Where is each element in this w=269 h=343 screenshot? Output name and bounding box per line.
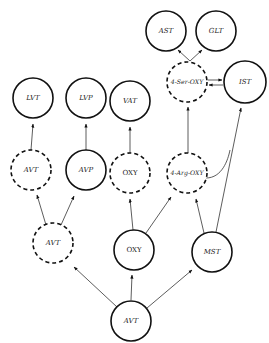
edge-oxy-low-to-oxy-mid [130, 199, 133, 230]
edge-oxy-low-to-arg-oxy [146, 197, 171, 233]
node-label: 4-Ser-OXY [170, 78, 204, 85]
edge-mst-to-ist [216, 108, 241, 232]
node-label: AVT [45, 239, 62, 247]
edge-ser-oxy-to-ast [178, 50, 190, 61]
pathway-diagram: AST GLT 4-Ser-OXY IST LVT LVP VAT AVT [0, 0, 269, 343]
node-oxy-low[interactable]: OXY [114, 230, 154, 270]
edge-avt-low-to-avp [61, 196, 74, 225]
node-glt[interactable]: GLT [196, 11, 236, 51]
node-4-ser-oxy[interactable]: 4-Ser-OXY [167, 62, 207, 102]
edge-mst-to-arg-oxy [196, 199, 204, 233]
node-label: VAT [123, 97, 138, 105]
nodes: AST GLT 4-Ser-OXY IST LVT LVP VAT AVT [11, 11, 266, 341]
node-lvt[interactable]: LVT [13, 78, 53, 118]
node-label: MST [203, 248, 222, 256]
node-lvp[interactable]: LVP [66, 78, 106, 118]
node-label: AVT [23, 166, 40, 174]
node-avt-mid[interactable]: AVT [11, 150, 51, 190]
node-ist[interactable]: IST [224, 61, 266, 103]
node-label: IST [238, 78, 253, 86]
edge-ser-oxy-to-glt [190, 50, 202, 61]
node-avt-low[interactable]: AVT [33, 223, 73, 263]
node-4-arg-oxy[interactable]: 4-Arg-OXY [167, 153, 207, 193]
node-label: LVT [25, 94, 41, 102]
edge-avt-low-to-avt-mid [37, 195, 46, 225]
node-vat[interactable]: VAT [110, 81, 150, 121]
node-label: LVP [78, 94, 93, 102]
edge-avt-root-to-mst [147, 270, 192, 308]
edge-arg-oxy-to-ist-curve [206, 150, 230, 178]
node-ast[interactable]: AST [146, 11, 186, 51]
node-label: OXY [122, 169, 138, 177]
edge-avt-root-to-avt-low [74, 267, 117, 307]
node-avp[interactable]: AVP [66, 150, 106, 190]
node-label: AVP [78, 166, 94, 174]
node-mst[interactable]: MST [192, 232, 232, 272]
edge-avt-mid-to-lvt [31, 124, 33, 150]
edge-avt-root-to-oxy-low [131, 275, 132, 300]
node-label: AVT [123, 317, 140, 325]
node-label: AST [158, 27, 175, 35]
node-avt-root[interactable]: AVT [111, 301, 151, 341]
node-oxy-mid[interactable]: OXY [110, 153, 150, 193]
node-label: OXY [126, 246, 142, 254]
node-label: 4-Arg-OXY [170, 169, 205, 177]
node-label: GLT [209, 27, 225, 35]
